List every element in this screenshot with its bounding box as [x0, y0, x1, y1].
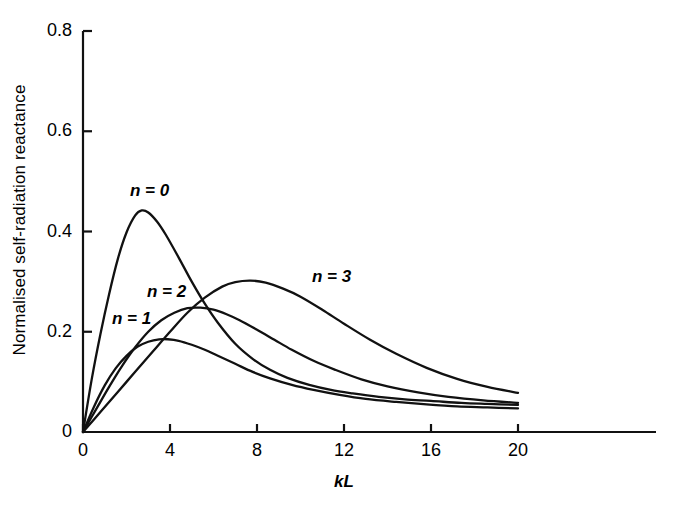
- curve-n3: [83, 281, 518, 432]
- chart-figure: Normalised self-radiation reactance 0.8 …: [0, 0, 683, 506]
- axis-lines: [83, 31, 656, 432]
- curve-n0: [83, 210, 518, 432]
- data-curves: [83, 210, 518, 432]
- curve-n1: [83, 339, 518, 432]
- axis-ticks: [83, 31, 518, 432]
- plot-area: [0, 0, 683, 506]
- curve-n2: [83, 308, 518, 432]
